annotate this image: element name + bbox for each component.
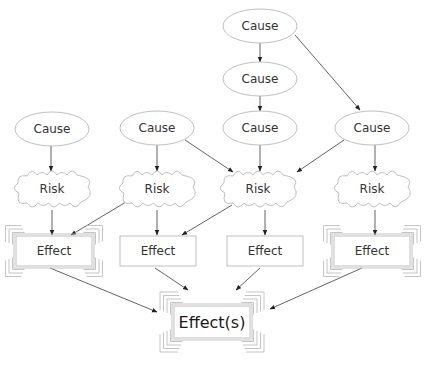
arrow-e2-to-ef [155, 268, 188, 290]
cause-label: Cause [354, 121, 391, 135]
cause-node-c4: Cause [335, 111, 409, 145]
risk-node-r1: Risk [14, 171, 90, 207]
risk-node-r4: Risk [334, 171, 410, 207]
cause-label: Cause [242, 19, 279, 33]
effect-node-e2: Effect [120, 236, 196, 266]
cause-node-c6: Cause [223, 9, 297, 43]
cause-node-c5: Cause [223, 62, 297, 96]
effect-node-e1: Effect [6, 226, 103, 277]
effect-label: Effect [355, 244, 390, 258]
cause-node-c1: Cause [15, 112, 89, 146]
risk-label: Risk [40, 182, 65, 196]
effect-label: Effect [37, 244, 72, 258]
effect-node-e4: Effect [324, 226, 421, 277]
arrow-e4-to-ef [270, 268, 362, 309]
risk-node-r3: Risk [220, 171, 296, 207]
effect-node-e3: Effect [227, 236, 303, 266]
arrow-c4-to-r3 [297, 140, 344, 172]
cause-label: Cause [139, 121, 176, 135]
final-effect-label: Effect(s) [179, 313, 246, 332]
final-effect-node-ef: Effect(s) [160, 292, 264, 352]
cause-risk-effect-diagram: CauseCauseCauseCauseCauseCauseRiskRiskRi… [0, 0, 427, 367]
cause-label: Cause [34, 122, 71, 136]
arrow-r2-to-e1 [71, 202, 126, 235]
risk-label: Risk [246, 182, 271, 196]
arrow-c6-to-c4 [295, 35, 360, 110]
risk-label: Risk [360, 182, 385, 196]
risk-label: Risk [145, 182, 170, 196]
cause-node-c2: Cause [120, 111, 194, 145]
cause-label: Cause [242, 72, 279, 86]
arrow-c2-to-r3 [185, 140, 233, 172]
arrow-e3-to-ef [236, 268, 260, 290]
effect-label: Effect [141, 244, 176, 258]
arrow-e1-to-ef [50, 268, 157, 312]
effect-label: Effect [248, 244, 283, 258]
risk-node-r2: Risk [119, 171, 195, 207]
cause-node-c3: Cause [223, 111, 297, 145]
arrow-r3-to-e2 [182, 205, 232, 235]
cause-label: Cause [242, 121, 279, 135]
node-layer: CauseCauseCauseCauseCauseCauseRiskRiskRi… [6, 9, 421, 352]
